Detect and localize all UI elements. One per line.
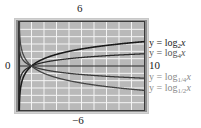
- legend-log1-2: y = log1/2x: [149, 83, 191, 95]
- legend-var: x: [181, 47, 185, 58]
- graph-window: [0, 0, 201, 128]
- legend-prefix: y = log: [149, 82, 177, 93]
- ymax-label: 6: [77, 3, 83, 14]
- xmax-label: 10: [149, 60, 160, 71]
- legend-prefix: y = log: [149, 71, 177, 82]
- legend-prefix: y = log: [149, 47, 177, 58]
- xmin-label: 0: [5, 60, 11, 71]
- legend-var: x: [186, 82, 190, 93]
- ymin-label: −6: [72, 115, 84, 126]
- legend-var: x: [186, 71, 190, 82]
